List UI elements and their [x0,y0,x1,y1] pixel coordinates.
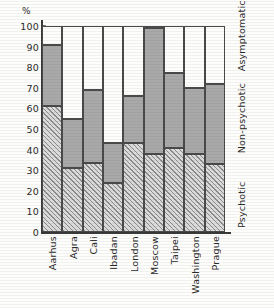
y-tick-label: 0 [33,227,39,238]
bar-agra [62,26,82,232]
legend-label-asymptomatic: Asymptomatic [236,26,247,71]
segment-psychotic [103,183,123,232]
x-tick-label: Ibadan [108,236,119,270]
segment-psychotic [184,154,204,232]
x-tick-label: Aarhus [47,236,58,270]
segment-asymptomatic [164,26,184,73]
bar-aarhus [42,26,62,232]
segment-asymptomatic [205,26,225,84]
stacked-bar-chart: % 1009080706050403020100 AarhusAgraCaliI… [0,0,274,308]
y-tick-label: 90 [27,41,40,52]
legend-label-psychotic: Psychotic [236,158,247,228]
y-tick-label: 10 [27,206,40,217]
segment-non-psychotic [42,45,62,107]
bar-ibadan [103,26,123,232]
segment-non-psychotic [205,84,225,164]
y-axis-tick-labels: 1009080706050403020100 [0,0,39,308]
x-tick-label: Washington [190,236,201,294]
segment-non-psychotic [184,88,204,154]
segment-asymptomatic [62,26,82,119]
x-axis-line [41,232,231,234]
x-tick-label: Moscow [149,236,160,275]
segment-psychotic [83,163,103,232]
segment-non-psychotic [144,28,164,154]
y-tick-label: 80 [27,62,40,73]
segment-psychotic [62,168,82,232]
x-tick-label: Cali [88,236,99,255]
bar-cali [83,26,103,232]
legend-label-non-psychotic: Non-psychotic [236,75,247,153]
x-tick-label: Agra [68,236,79,259]
y-tick-label: 30 [27,165,40,176]
segment-non-psychotic [62,119,82,168]
segment-asymptomatic [42,26,62,45]
y-tick-label: 60 [27,103,40,114]
segment-asymptomatic [123,26,143,96]
y-tick-label: 100 [20,21,39,32]
segment-psychotic [123,143,143,232]
x-tick-label: Taipei [169,236,180,264]
segment-psychotic [42,106,62,232]
segment-non-psychotic [164,73,184,147]
plot-area [42,26,225,232]
x-tick-label: London [129,236,140,272]
y-tick-label: 50 [27,124,40,135]
y-tick-label: 20 [27,185,40,196]
bar-moscow [144,26,164,232]
x-tick-label: Prague [210,236,221,270]
bar-london [123,26,143,232]
segment-psychotic [205,164,225,232]
bar-taipei [164,26,184,232]
segment-non-psychotic [103,143,123,182]
segment-psychotic [164,148,184,232]
segment-asymptomatic [103,26,123,143]
segment-asymptomatic [184,26,204,88]
bar-prague [205,26,225,232]
bar-washington [184,26,204,232]
segment-asymptomatic [83,26,103,90]
segment-non-psychotic [83,90,103,163]
y-tick-label: 70 [27,82,40,93]
segment-psychotic [144,154,164,232]
y-tick-label: 40 [27,144,40,155]
segment-non-psychotic [123,96,143,143]
